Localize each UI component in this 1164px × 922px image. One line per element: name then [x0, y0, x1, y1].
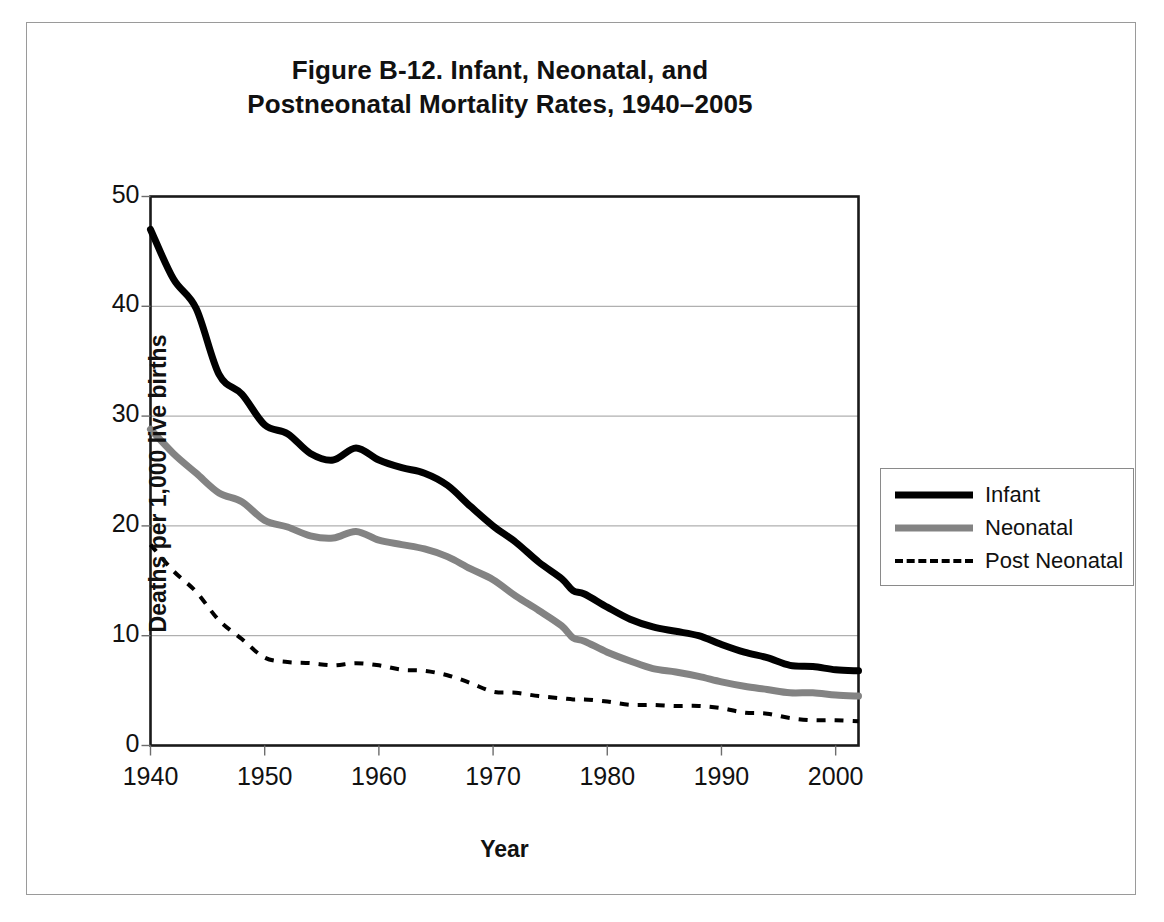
x-tick-label: 1960: [334, 762, 424, 791]
plot-area: Deaths per 1,000 live births Year 010203…: [0, 0, 1164, 922]
legend-item-post-neonatal: Post Neonatal: [881, 544, 1133, 577]
y-tick-label: 0: [80, 729, 140, 758]
y-tick-label: 10: [80, 619, 140, 648]
figure-container: Figure B-12. Infant, Neonatal, and Postn…: [0, 0, 1164, 922]
data-series: [151, 229, 859, 721]
y-tick-label: 50: [80, 180, 140, 209]
legend-swatch-neonatal-icon: [895, 519, 973, 537]
plot-frame: [151, 197, 859, 746]
y-tick-label: 40: [80, 289, 140, 318]
series-line-infant: [151, 229, 859, 670]
legend-swatch-infant-icon: [895, 486, 973, 504]
legend-item-infant: Infant: [881, 478, 1133, 511]
legend-swatch-post-neonatal-icon: [895, 552, 973, 570]
x-axis-title: Year: [150, 836, 859, 863]
y-axis-title: Deaths per 1,000 live births: [145, 274, 172, 694]
legend: Infant Neonatal Post Neonatal: [880, 468, 1134, 586]
legend-item-neonatal: Neonatal: [881, 511, 1133, 544]
legend-label-infant: Infant: [985, 482, 1040, 508]
x-tick-label: 1970: [448, 762, 538, 791]
x-tick-label: 1990: [676, 762, 766, 791]
x-tick-label: 2000: [791, 762, 881, 791]
series-line-post-neonatal: [151, 545, 859, 722]
x-tick-label: 1940: [106, 762, 196, 791]
y-tick-label: 20: [80, 509, 140, 538]
y-tick-label: 30: [80, 399, 140, 428]
legend-label-neonatal: Neonatal: [985, 515, 1073, 541]
legend-label-post-neonatal: Post Neonatal: [985, 548, 1123, 574]
x-tick-label: 1980: [562, 762, 652, 791]
x-tick-label: 1950: [220, 762, 310, 791]
axis-ticks: [142, 197, 836, 756]
